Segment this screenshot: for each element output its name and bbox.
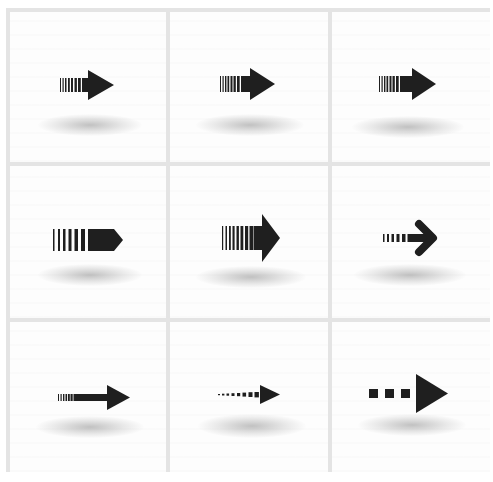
striped-arrow-right-icon [170, 166, 328, 318]
square-dots-arrow-icon [332, 322, 490, 472]
grid-cell-1 [10, 12, 166, 162]
dotted-arrow-right-icon [170, 322, 328, 472]
striped-arrow-right-icon [170, 12, 328, 162]
long-striped-arrow-icon [10, 322, 166, 472]
striped-arrow-right-icon [10, 12, 166, 162]
grid-cell-4 [10, 166, 166, 318]
grid-cell-6 [332, 166, 490, 318]
grid-cell-7 [10, 322, 166, 472]
grid-cell-5 [170, 166, 328, 318]
icon-grid [6, 8, 490, 472]
striped-pentagon-arrow-icon [10, 166, 166, 318]
grid-cell-2 [170, 12, 328, 162]
grid-cell-9 [332, 322, 490, 472]
striped-arrow-right-icon [332, 12, 490, 162]
dashed-chevron-arrow-icon [332, 166, 490, 318]
grid-cell-8 [170, 322, 328, 472]
grid-cell-3 [332, 12, 490, 162]
